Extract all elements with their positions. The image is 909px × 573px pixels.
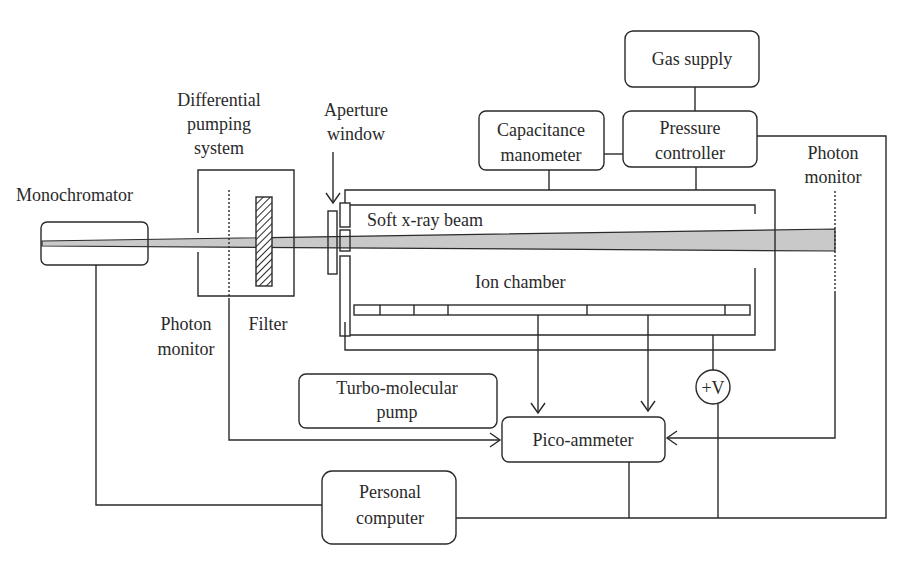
photon-monitor-right: Photon monitor (805, 143, 862, 292)
capacitance-manometer-label-2: manometer (501, 145, 582, 165)
gas-supply-label: Gas supply (652, 49, 733, 69)
pico-ammeter-box: Pico-ammeter (502, 417, 665, 462)
photon-monitor-left-label-2: monitor (158, 339, 215, 359)
filter-label: Filter (249, 314, 288, 334)
filter-element (256, 197, 272, 286)
voltage-source-label: +V (701, 378, 724, 398)
photon-monitor-right-label-2: monitor (805, 167, 862, 187)
differential-pumping-label-1: Differential (177, 90, 261, 110)
aperture-window-label-2: window (327, 124, 385, 144)
monochromator-label: Monochromator (16, 185, 133, 205)
differential-pumping-label-3: system (194, 138, 244, 158)
capacitance-manometer-label-1: Capacitance (497, 120, 585, 140)
personal-computer-box: Personal computer (322, 471, 456, 544)
turbo-molecular-pump-box: Turbo-molecular pump (299, 374, 497, 428)
photon-monitor-right-label-1: Photon (807, 143, 858, 163)
turbo-pump-label-2: pump (376, 402, 417, 422)
monochromator: Monochromator (16, 185, 148, 265)
pressure-controller-label-1: Pressure (660, 118, 721, 138)
aperture-window-label-1: Aperture (324, 100, 388, 120)
soft-xray-beam-label: Soft x-ray beam (367, 210, 483, 230)
differential-pumping-system: Differential pumping system (177, 90, 294, 300)
soft-xray-beam (42, 229, 835, 251)
capacitance-manometer-box: Capacitance manometer (479, 111, 604, 170)
experiment-diagram: Monochromator Differential pumping syste… (0, 0, 909, 573)
pico-ammeter-label: Pico-ammeter (533, 430, 634, 450)
ion-chamber-label: Ion chamber (475, 272, 565, 292)
differential-pumping-label-2: pumping (187, 114, 251, 134)
personal-computer-label-1: Personal (359, 482, 421, 502)
personal-computer-label-2: computer (356, 508, 424, 528)
gas-supply-box: Gas supply (625, 31, 759, 87)
ion-chamber: Soft x-ray beam Ion chamber (340, 190, 775, 350)
photon-monitor-left-label-1: Photon (160, 314, 211, 334)
pressure-controller-box: Pressure controller (623, 111, 757, 167)
voltage-source: +V (696, 370, 730, 404)
pressure-controller-label-2: controller (655, 143, 725, 163)
turbo-pump-label-1: Turbo-molecular (336, 378, 457, 398)
